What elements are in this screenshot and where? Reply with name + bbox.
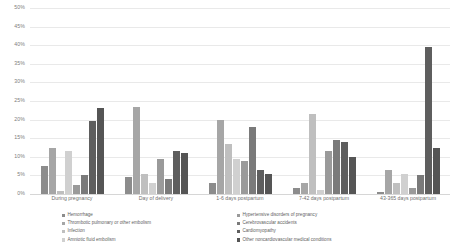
bar [225, 144, 232, 194]
bar [141, 174, 148, 194]
bar [401, 174, 408, 194]
bar [233, 159, 240, 194]
bar [81, 175, 88, 194]
legend-label: Infection [67, 229, 84, 234]
y-axis-tick: 45% [14, 24, 25, 29]
bar [65, 151, 72, 194]
bar-chart: 50%45%40%35%30%25%20%15%10%5%0% During p… [0, 0, 457, 249]
plot-area [30, 8, 450, 194]
legend-label: Hypertensive disorders of pregnancy [242, 213, 317, 218]
bar [209, 183, 216, 194]
bar [385, 170, 392, 194]
bar [173, 151, 180, 194]
x-axis-label: 43-365 days postpartum [366, 196, 450, 201]
x-axis-label: During pregnancy [30, 196, 114, 201]
bar [241, 161, 248, 194]
bar [217, 120, 224, 194]
y-axis: 50%45%40%35%30%25%20%15%10%5%0% [0, 8, 28, 194]
bar [317, 190, 324, 194]
bar [341, 142, 348, 194]
y-axis-tick: 0% [17, 191, 25, 196]
y-axis-tick: 40% [14, 43, 25, 48]
legend-item[interactable]: Hypertensive disorders of pregnancy [237, 213, 402, 218]
bar [73, 185, 80, 194]
bar [89, 121, 96, 194]
legend-item[interactable]: Thrombotic pulmonary or other embolism [62, 221, 227, 226]
legend-item[interactable]: Cerebrovascular accidents [237, 221, 402, 226]
y-axis-tick: 30% [14, 80, 25, 85]
bar [433, 148, 440, 195]
legend-item[interactable]: Cardiomyopathy [237, 229, 402, 234]
legend-label: Cardiomyopathy [242, 229, 275, 234]
legend-swatch-icon [62, 214, 65, 217]
bar [409, 188, 416, 194]
bar [377, 192, 384, 194]
bar [97, 108, 104, 194]
bar-group [198, 8, 282, 194]
x-axis-label: 1-6 days postpartum [198, 196, 282, 201]
bar [265, 174, 272, 194]
x-axis-label: 7-42 days postpartum [282, 196, 366, 201]
y-axis-tick: 10% [14, 154, 25, 159]
y-axis-tick: 25% [14, 98, 25, 103]
bar [293, 188, 300, 194]
legend-label: Cerebrovascular accidents [242, 221, 296, 226]
legend-label: Other noncardiovascular medical conditio… [242, 238, 331, 243]
legend-label: Thrombotic pulmonary or other embolism [67, 221, 151, 226]
legend-swatch-icon [62, 230, 65, 233]
bar [57, 191, 64, 194]
bar [325, 151, 332, 194]
bar [157, 159, 164, 194]
bar [393, 183, 400, 194]
bar [333, 140, 340, 194]
legend-item[interactable]: Hemorrhage [62, 213, 227, 218]
legend-swatch-icon [62, 238, 65, 241]
bar [41, 166, 48, 194]
bar [425, 47, 432, 194]
chart-legend: HemorrhageHypertensive disorders of preg… [62, 213, 402, 242]
bar [165, 179, 172, 194]
bar-group [282, 8, 366, 194]
bar-group [366, 8, 450, 194]
bar-group [30, 8, 114, 194]
bar [249, 127, 256, 194]
x-axis: During pregnancyDay of delivery1-6 days … [30, 196, 450, 201]
y-axis-tick: 15% [14, 136, 25, 141]
bar-groups [30, 8, 450, 194]
legend-swatch-icon [237, 222, 240, 225]
y-axis-tick: 5% [17, 173, 25, 178]
legend-label: Hemorrhage [67, 213, 93, 218]
bar [417, 175, 424, 194]
x-axis-label: Day of delivery [114, 196, 198, 201]
bar [309, 114, 316, 194]
legend-swatch-icon [237, 238, 240, 241]
bar [181, 153, 188, 194]
y-axis-tick: 50% [14, 5, 25, 10]
legend-label: Amniotic fluid embolism [67, 238, 115, 243]
legend-swatch-icon [62, 222, 65, 225]
bar-group [114, 8, 198, 194]
bar [149, 183, 156, 194]
legend-item[interactable]: Infection [62, 229, 227, 234]
bar [301, 183, 308, 194]
legend-swatch-icon [237, 230, 240, 233]
bar [349, 157, 356, 194]
legend-swatch-icon [237, 214, 240, 217]
y-axis-tick: 20% [14, 117, 25, 122]
y-axis-tick: 35% [14, 61, 25, 66]
bar [49, 148, 56, 195]
bar [125, 177, 132, 194]
legend-item[interactable]: Other noncardiovascular medical conditio… [237, 238, 402, 243]
legend-item[interactable]: Amniotic fluid embolism [62, 238, 227, 243]
bar [257, 170, 264, 194]
bar [133, 107, 140, 194]
